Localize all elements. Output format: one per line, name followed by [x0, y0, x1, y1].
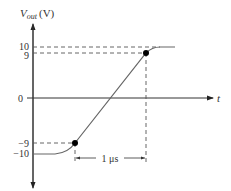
tick-labels: 10 9 0 −9 −10 — [13, 41, 29, 159]
tick-neg10: −10 — [13, 148, 29, 159]
vout-curve — [33, 47, 175, 154]
dashed-guides — [33, 47, 160, 162]
point-9v — [143, 50, 149, 56]
interval-dimension: 1 μs — [76, 153, 145, 164]
y-axis-label: Vout(V) — [20, 7, 55, 21]
slew-rate-diagram: 1 μs Vout(V) t 10 9 0 −9 −10 — [0, 0, 231, 191]
x-axis-label: t — [217, 92, 221, 104]
interval-label: 1 μs — [102, 153, 119, 164]
point-neg9v — [72, 140, 78, 146]
tick-0: 0 — [18, 93, 23, 104]
tick-9: 9 — [24, 50, 29, 61]
